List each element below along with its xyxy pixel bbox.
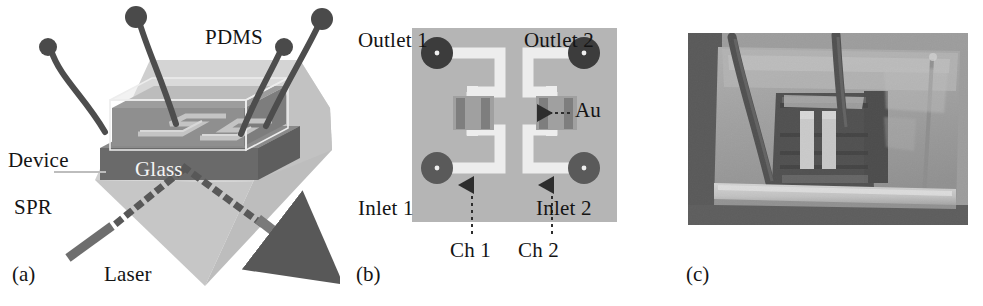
figure-container: PDMS Device Glass SPR Laser (a) [0,0,983,306]
port-inlet-2 [568,152,600,184]
label-spr: SPR [14,195,52,220]
label-pdms: PDMS [205,25,263,50]
panel-tag-c: (c) [686,262,709,287]
panel-tag-a: (a) [12,262,35,287]
label-inlet-2: Inlet 2 [536,196,592,221]
laser-source [68,226,112,258]
photo-content [688,33,968,225]
beam-exit-arrow [258,219,288,242]
label-outlet-2: Outlet 2 [524,28,594,53]
label-laser: Laser [104,262,152,287]
label-ch-2: Ch 2 [518,238,559,263]
label-outlet-1: Outlet 1 [358,28,428,53]
panel-tag-b: (b) [356,262,381,287]
label-au: Au [575,98,601,123]
panel-a: PDMS Device Glass SPR Laser (a) [0,0,340,306]
label-inlet-1: Inlet 1 [358,196,414,221]
label-ch-1: Ch 1 [450,238,491,263]
port-inlet-1 [421,152,453,184]
device-photograph [688,33,968,225]
panel-c: (c) [670,0,983,306]
label-glass: Glass [135,157,183,182]
label-device: Device [8,148,69,173]
tubing-connectors [39,6,333,56]
panel-b: Outlet 1 Outlet 2 Inlet 1 Inlet 2 Au Ch … [340,0,670,306]
